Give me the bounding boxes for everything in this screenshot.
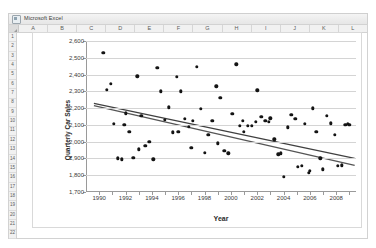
x-tick-mark bbox=[139, 192, 140, 195]
gridline bbox=[86, 142, 356, 143]
row-header-22[interactable]: 22 bbox=[9, 230, 16, 239]
y-tick-label: 2,100 bbox=[69, 122, 84, 128]
x-tick-mark bbox=[165, 192, 166, 195]
column-header-b[interactable]: B bbox=[48, 25, 77, 32]
column-header-k[interactable]: K bbox=[310, 25, 339, 32]
row-header-12[interactable]: 12 bbox=[9, 136, 16, 145]
column-header-h[interactable]: H bbox=[223, 25, 252, 32]
x-tick-label: 2000 bbox=[224, 195, 237, 201]
gridline bbox=[86, 91, 356, 92]
row-header-19[interactable]: 19 bbox=[9, 201, 16, 210]
y-tick-label: 2,300 bbox=[69, 88, 84, 94]
row-header-2[interactable]: 2 bbox=[9, 42, 16, 51]
gridline bbox=[86, 108, 356, 109]
row-header-11[interactable]: 11 bbox=[9, 127, 16, 136]
x-tick-mark bbox=[112, 192, 113, 195]
y-tick-label: 1,800 bbox=[69, 172, 84, 178]
x-tick-label: 2002 bbox=[251, 195, 264, 201]
column-header-g[interactable]: G bbox=[193, 25, 222, 32]
y-tick-label: 1,900 bbox=[69, 155, 84, 161]
gridline bbox=[86, 125, 356, 126]
column-header-j[interactable]: J bbox=[281, 25, 310, 32]
gridline bbox=[86, 158, 356, 159]
x-tick-mark bbox=[191, 192, 192, 195]
x-tick-mark bbox=[244, 192, 245, 195]
row-header-15[interactable]: 15 bbox=[9, 164, 16, 173]
x-tick-label: 1998 bbox=[198, 195, 211, 201]
x-tick-mark bbox=[323, 192, 324, 195]
row-header-1[interactable]: 1 bbox=[9, 33, 16, 42]
y-tick-label: 1,700 bbox=[69, 189, 84, 195]
select-all-corner[interactable] bbox=[9, 25, 19, 32]
y-tick-label: 2,500 bbox=[69, 55, 84, 61]
chart-object[interactable]: Quarterly Car Sales Year 1,7001,8001,900… bbox=[32, 32, 362, 228]
x-tick-mark bbox=[297, 192, 298, 195]
x-tick-label: 2008 bbox=[330, 195, 343, 201]
x-tick-label: 2006 bbox=[303, 195, 316, 201]
x-tick-mark bbox=[270, 192, 271, 195]
x-tick-label: 1990 bbox=[92, 195, 105, 201]
gridline bbox=[86, 75, 356, 76]
column-header-e[interactable]: E bbox=[135, 25, 164, 32]
row-header-21[interactable]: 21 bbox=[9, 220, 16, 229]
row-header-6[interactable]: 6 bbox=[9, 80, 16, 89]
y-tick-label: 2,000 bbox=[69, 139, 84, 145]
window-title: Microsoft Excel bbox=[24, 16, 63, 22]
excel-icon bbox=[12, 15, 21, 24]
row-header-3[interactable]: 3 bbox=[9, 52, 16, 61]
x-tick-mark bbox=[218, 192, 219, 195]
row-header-column: 12345678910111213141516171819202122 bbox=[8, 33, 17, 239]
x-tick-label: 1994 bbox=[145, 195, 158, 201]
row-header-17[interactable]: 17 bbox=[9, 183, 16, 192]
gridline bbox=[86, 41, 356, 42]
column-header-c[interactable]: C bbox=[77, 25, 106, 32]
row-header-16[interactable]: 16 bbox=[9, 173, 16, 182]
x-axis-title: Year bbox=[86, 215, 356, 222]
gridline bbox=[86, 58, 356, 59]
y-tick-label: 2,200 bbox=[69, 105, 84, 111]
row-header-8[interactable]: 8 bbox=[9, 99, 16, 108]
column-header-a[interactable]: A bbox=[19, 25, 48, 32]
x-tick-label: 1992 bbox=[119, 195, 132, 201]
row-header-10[interactable]: 10 bbox=[9, 117, 16, 126]
trendline-layer bbox=[86, 41, 356, 192]
column-header-i[interactable]: I bbox=[252, 25, 281, 32]
gridline bbox=[86, 175, 356, 176]
column-header-d[interactable]: D bbox=[106, 25, 135, 32]
row-header-5[interactable]: 5 bbox=[9, 70, 16, 79]
x-tick-label: 2004 bbox=[277, 195, 290, 201]
row-header-14[interactable]: 14 bbox=[9, 155, 16, 164]
y-tick-label: 2,600 bbox=[69, 38, 84, 44]
x-tick-mark bbox=[349, 192, 350, 195]
row-header-18[interactable]: 18 bbox=[9, 192, 16, 201]
row-header-7[interactable]: 7 bbox=[9, 89, 16, 98]
x-tick-label: 1996 bbox=[172, 195, 185, 201]
excel-window: Microsoft Excel ABCDEFGHIJKL 12345678910… bbox=[0, 0, 376, 248]
y-tick-label: 2,400 bbox=[69, 72, 84, 78]
row-header-20[interactable]: 20 bbox=[9, 211, 16, 220]
title-bar: Microsoft Excel bbox=[8, 13, 368, 24]
row-header-13[interactable]: 13 bbox=[9, 145, 16, 154]
row-header-4[interactable]: 4 bbox=[9, 61, 16, 70]
column-header-f[interactable]: F bbox=[164, 25, 193, 32]
plot-area: 1,7001,8001,9002,0002,1002,2002,3002,400… bbox=[86, 41, 356, 192]
column-header-l[interactable]: L bbox=[339, 25, 367, 32]
row-header-9[interactable]: 9 bbox=[9, 108, 16, 117]
